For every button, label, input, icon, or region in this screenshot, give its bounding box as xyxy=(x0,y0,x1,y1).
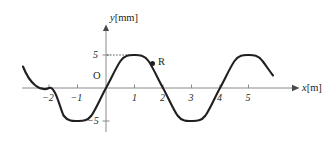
point-r-marker xyxy=(150,61,155,66)
x-tick-label-2: 2 xyxy=(160,93,165,103)
x-axis-ticks xyxy=(49,85,249,89)
x-axis-arrow-icon xyxy=(292,85,300,91)
x-tick-label-5: 5 xyxy=(246,93,251,103)
point-r-label: R xyxy=(158,57,165,68)
y-tick-label-5: 5 xyxy=(93,50,98,60)
y-axis-title: y[mm] xyxy=(110,13,138,24)
y-axis-arrow-icon xyxy=(103,25,109,32)
y-axis-title-unit: [mm] xyxy=(115,12,138,23)
x-tick-label-4: 4 xyxy=(217,93,222,103)
x-tick-label--2: −2 xyxy=(42,93,54,103)
x-tick-label--1: −1 xyxy=(71,93,83,103)
y-tick-label--5: −5 xyxy=(87,116,99,126)
wave-plot-svg xyxy=(0,0,336,149)
wave-figure: y[mm] x[m] O −2 −1 1 2 3 4 5 5 −5 R xyxy=(0,0,336,149)
x-axis-title-unit: [m] xyxy=(307,82,322,93)
origin-label: O xyxy=(93,71,101,82)
x-tick-label-3: 3 xyxy=(189,93,194,103)
x-axis-title: x[m] xyxy=(302,83,322,94)
x-tick-label-1: 1 xyxy=(132,93,137,103)
